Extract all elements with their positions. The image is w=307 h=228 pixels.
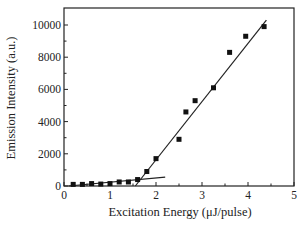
y-axis-ticks: 0200040006000800010000	[32, 19, 68, 192]
data-point-marker	[227, 50, 232, 55]
y-tick-label: 6000	[38, 83, 61, 95]
x-tick-label: 3	[199, 189, 205, 201]
data-point-marker	[183, 109, 188, 114]
x-tick-label: 0	[61, 189, 67, 201]
data-point-marker	[243, 34, 248, 39]
data-point-marker	[144, 169, 149, 174]
y-axis-label: Emission Intensity (a.u.)	[4, 37, 18, 160]
data-point-marker	[80, 182, 85, 187]
data-point-marker	[108, 181, 113, 186]
data-points	[71, 24, 267, 187]
x-tick-label: 5	[291, 189, 297, 201]
data-point-marker	[98, 182, 103, 187]
x-tick-label: 1	[107, 189, 113, 201]
y-tick-label: 2000	[38, 148, 61, 160]
x-tick-label: 2	[153, 189, 159, 201]
data-point-marker	[135, 177, 140, 182]
chart: 0200040006000800010000 012345 Excitation…	[0, 0, 307, 228]
data-point-marker	[154, 156, 159, 161]
data-point-marker	[117, 179, 122, 184]
y-tick-label: 10000	[32, 19, 61, 31]
data-point-marker	[193, 98, 198, 103]
data-point-marker	[177, 137, 182, 142]
x-tick-label: 4	[245, 189, 251, 201]
fit-lines	[69, 20, 267, 186]
data-point-marker	[211, 85, 216, 90]
data-point-marker	[71, 182, 76, 187]
data-point-marker	[126, 179, 131, 184]
data-point-marker	[262, 24, 267, 29]
x-axis-ticks: 012345	[61, 182, 297, 201]
data-point-marker	[89, 181, 94, 186]
y-tick-label: 4000	[38, 116, 61, 128]
plot-frame	[64, 8, 294, 186]
y-tick-label: 8000	[38, 51, 61, 63]
x-axis-label: Excitation Energy (μJ/pulse)	[108, 205, 251, 219]
